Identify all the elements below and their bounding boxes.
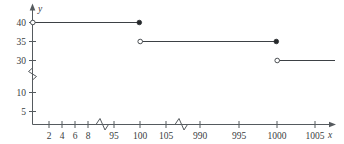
x-tick-label-105: 105	[159, 131, 174, 141]
x-tick-labels-group: 2 4 6 8 95 100 105 990 995 1000 1005	[47, 131, 325, 141]
x-tick-label-1000: 1000	[268, 131, 287, 141]
open-circle-start-level-40	[31, 20, 36, 25]
x-tick-label-6: 6	[73, 131, 78, 141]
x-axis-label: x	[327, 130, 333, 140]
open-circle-start-level-30	[275, 58, 280, 63]
x-tick-label-95: 95	[109, 131, 119, 141]
y-tick-label-10: 10	[17, 88, 27, 98]
x-tick-label-2: 2	[47, 131, 52, 141]
y-tick-label-35: 35	[17, 37, 27, 47]
x-axis-arrowhead	[329, 122, 336, 128]
closed-dot-end-level-40	[137, 20, 142, 25]
closed-dot-end-level-35	[274, 39, 279, 44]
x-tick-label-990: 990	[193, 131, 208, 141]
x-tick-label-4: 4	[60, 131, 65, 141]
step-function-chart: 40 35 30 10 5 2 4 6 8 95 100 105 990 995…	[0, 0, 344, 144]
x-axis-break-zigzag-2	[172, 119, 190, 131]
x-tick-label-8: 8	[86, 131, 91, 141]
x-tick-label-995: 995	[232, 131, 247, 141]
step-function-curve	[33, 23, 335, 61]
y-axis-break-zigzag	[29, 66, 37, 83]
y-axis-label: y	[37, 4, 43, 14]
y-tick-labels-group: 40 35 30 10 5	[17, 18, 27, 117]
x-tick-label-1005: 1005	[306, 131, 325, 141]
x-tick-label-100: 100	[133, 131, 148, 141]
y-tick-label-40: 40	[17, 18, 27, 28]
y-tick-label-30: 30	[17, 56, 27, 66]
x-axis-break-zigzag-1	[93, 119, 111, 131]
y-tick-label-5: 5	[21, 107, 26, 117]
chart-canvas: 40 35 30 10 5 2 4 6 8 95 100 105 990 995…	[0, 0, 344, 144]
open-circle-start-level-35	[138, 39, 143, 44]
y-axis-arrowhead	[30, 4, 36, 11]
